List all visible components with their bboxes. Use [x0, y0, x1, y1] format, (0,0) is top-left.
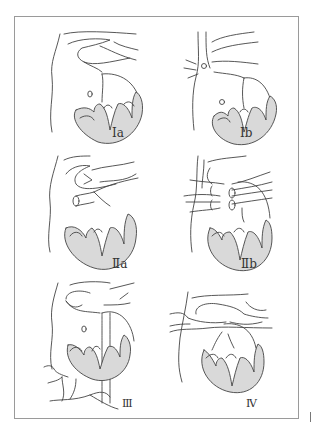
panel-label: Ⅱa [112, 258, 127, 270]
heart-diagram-IV [168, 288, 288, 413]
panel-label: Ⅰa [112, 127, 124, 139]
heart-diagram-Ib [172, 22, 292, 147]
panel-label: Ⅱb [241, 258, 257, 270]
panel-type-IIa: Ⅱa [40, 152, 160, 277]
panel-label: Ⅲ [122, 398, 133, 409]
panel-label: Ⅰb [240, 127, 252, 139]
panel-type-IV: Ⅳ [168, 288, 288, 413]
panel-label: Ⅳ [246, 398, 257, 409]
heart-diagram-Ia [40, 22, 160, 147]
heart-diagram-III [40, 283, 160, 408]
heart-diagram-IIb [172, 152, 292, 277]
panel-type-III: Ⅲ [40, 283, 160, 408]
panel-type-Ia: Ⅰa [40, 22, 160, 147]
panel-type-Ib: Ⅰb [172, 22, 292, 147]
heart-diagram-IIa [40, 152, 160, 277]
page-edge-mark [310, 412, 311, 422]
panel-type-IIb: Ⅱb [172, 152, 292, 277]
